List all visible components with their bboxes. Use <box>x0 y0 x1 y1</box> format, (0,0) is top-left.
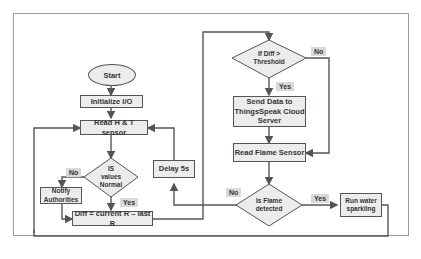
send-line-2: ThingsSpeak Cloud <box>234 107 304 116</box>
run-water-line-2: sparkling <box>345 205 376 213</box>
read-ht-sensor-label: Read H & T sensor <box>81 118 147 137</box>
is-normal-line-3: Normal <box>100 181 122 189</box>
initialize-io-label: Initialize I/O <box>91 97 133 106</box>
flame-no-tag: No <box>226 188 241 197</box>
start-node: Start <box>88 64 136 86</box>
notify-line-2: Authorities <box>44 196 78 204</box>
flame-yes-tag: Yes <box>311 194 329 203</box>
run-water-line-1: Run water <box>345 197 376 205</box>
threshold-label: If Diff > Threshold <box>245 46 293 70</box>
is-flame-line-2: detected <box>256 205 283 213</box>
threshold-line-2: Threshold <box>253 58 284 66</box>
threshold-yes-tag: Yes <box>276 82 294 91</box>
send-data-box: Send Data to ThingsSpeak Cloud Server <box>233 96 306 127</box>
is-normal-line-2: values <box>100 173 122 181</box>
read-flame-sensor-box: Read Flame Sensor <box>233 143 306 162</box>
normal-yes-tag: Yes <box>120 198 138 207</box>
is-normal-line-1: IS <box>100 165 122 173</box>
delay-label: Delay 5s <box>159 164 189 173</box>
threshold-no-tag: No <box>311 47 326 56</box>
send-line-3: Server <box>234 116 304 125</box>
is-flame-line-1: Is Flame <box>256 197 283 205</box>
is-flame-label: Is Flame detected <box>247 193 291 217</box>
read-ht-sensor-box: Read H & T sensor <box>80 120 148 135</box>
normal-no-tag: No <box>66 168 81 177</box>
notify-authorities-box: Notify Authorities <box>40 187 82 204</box>
diff-box: Diff = current R – last R <box>72 211 153 226</box>
send-line-1: Send Data to <box>234 97 304 106</box>
read-flame-sensor-label: Read Flame Sensor <box>235 148 305 157</box>
is-normal-label: IS values Normal <box>94 162 128 192</box>
delay-box: Delay 5s <box>153 160 195 178</box>
start-label: Start <box>103 71 120 80</box>
threshold-line-1: If Diff > <box>253 50 284 58</box>
run-water-box: Run water sparkling <box>340 193 382 217</box>
initialize-io-box: Initialize I/O <box>80 95 143 108</box>
notify-line-1: Notify <box>44 187 78 195</box>
diff-label: Diff = current R – last R <box>73 209 152 228</box>
connector-lines <box>0 0 421 259</box>
